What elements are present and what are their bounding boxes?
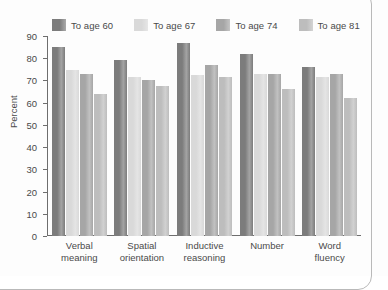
- bar[interactable]: [282, 89, 295, 236]
- y-tick-label: 60: [26, 97, 37, 108]
- x-category-label-line: Number: [236, 240, 299, 252]
- x-category-label-line: Inductive: [173, 240, 236, 252]
- x-category-label-line: reasoning: [173, 252, 236, 264]
- legend-swatch-icon: [299, 19, 313, 31]
- bar-group: [111, 36, 174, 236]
- legend-label: To age 67: [153, 20, 195, 31]
- x-category-label-line: meaning: [48, 252, 111, 264]
- bar[interactable]: [156, 86, 169, 236]
- bar-group: [298, 36, 361, 236]
- x-category-label: Inductivereasoning: [173, 240, 236, 263]
- bar[interactable]: [205, 65, 218, 236]
- y-tick-label: 50: [26, 119, 37, 130]
- y-tick-label: 0: [32, 231, 37, 242]
- x-axis-category-labels: VerbalmeaningSpatialorientationInductive…: [48, 240, 361, 263]
- bar-group: [48, 36, 111, 236]
- y-tick-label: 40: [26, 142, 37, 153]
- legend-item-0[interactable]: To age 60: [52, 19, 113, 31]
- bar-group: [236, 36, 299, 236]
- plot-area: 0102030405060708090: [47, 36, 361, 236]
- y-tick: 30: [43, 169, 47, 170]
- y-tick: 0: [43, 236, 47, 237]
- y-tick-label: 90: [26, 31, 37, 42]
- y-tick: 20: [43, 192, 47, 193]
- legend-item-1[interactable]: To age 67: [134, 19, 195, 31]
- bar[interactable]: [219, 77, 232, 236]
- bar[interactable]: [316, 77, 329, 236]
- y-tick-label: 20: [26, 186, 37, 197]
- bar[interactable]: [66, 70, 79, 236]
- y-tick: 10: [43, 214, 47, 215]
- y-tick: 80: [43, 58, 47, 59]
- x-category-label: Verbalmeaning: [48, 240, 111, 263]
- chart-legend: To age 60To age 67To age 74To age 81: [52, 19, 381, 31]
- bar[interactable]: [240, 54, 253, 236]
- x-category-label-line: Verbal: [48, 240, 111, 252]
- bar-groups: [48, 36, 361, 236]
- bar[interactable]: [254, 74, 267, 236]
- legend-label: To age 74: [235, 20, 277, 31]
- bar[interactable]: [142, 80, 155, 236]
- y-tick: 50: [43, 125, 47, 126]
- bar[interactable]: [330, 74, 343, 236]
- legend-label: To age 60: [71, 20, 113, 31]
- bar[interactable]: [302, 67, 315, 236]
- bar[interactable]: [52, 47, 65, 236]
- y-tick: 60: [43, 103, 47, 104]
- bar[interactable]: [128, 77, 141, 236]
- x-category-label-line: fluency: [298, 252, 361, 264]
- x-category-label: Number: [236, 240, 299, 263]
- bar[interactable]: [80, 74, 93, 236]
- x-category-label-line: Spatial: [111, 240, 174, 252]
- bar[interactable]: [114, 60, 127, 236]
- bar[interactable]: [268, 74, 281, 236]
- y-tick: 90: [43, 36, 47, 37]
- x-category-label: Spatialorientation: [111, 240, 174, 263]
- x-category-label-line: Word: [298, 240, 361, 252]
- legend-swatch-icon: [216, 19, 230, 31]
- legend-label: To age 81: [318, 20, 360, 31]
- y-tick: 70: [43, 80, 47, 81]
- bar[interactable]: [177, 43, 190, 236]
- y-tick-label: 10: [26, 208, 37, 219]
- y-tick: 40: [43, 147, 47, 148]
- bar-group: [173, 36, 236, 236]
- legend-swatch-icon: [52, 19, 66, 31]
- y-axis-label: Percent: [8, 95, 19, 128]
- bar[interactable]: [344, 98, 357, 236]
- y-tick-label: 70: [26, 75, 37, 86]
- legend-swatch-icon: [134, 19, 148, 31]
- x-category-label: Wordfluency: [298, 240, 361, 263]
- bar[interactable]: [191, 75, 204, 236]
- bar[interactable]: [94, 94, 107, 236]
- y-tick-label: 80: [26, 53, 37, 64]
- legend-item-2[interactable]: To age 74: [216, 19, 277, 31]
- x-category-label-line: orientation: [111, 252, 174, 264]
- y-tick-label: 30: [26, 164, 37, 175]
- legend-item-3[interactable]: To age 81: [299, 19, 360, 31]
